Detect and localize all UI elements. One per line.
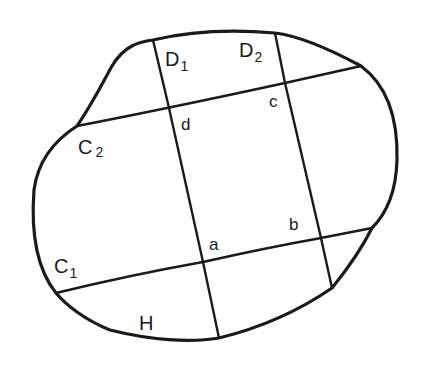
label-h: H bbox=[139, 312, 153, 334]
label-point-d: d bbox=[181, 115, 190, 134]
label-d1: D1 bbox=[165, 48, 188, 74]
label-d2: D2 bbox=[239, 39, 262, 65]
label-c1: C1 bbox=[54, 255, 77, 281]
label-c2: C2 bbox=[78, 136, 103, 160]
label-point-a: a bbox=[209, 235, 219, 254]
label-point-b: b bbox=[289, 215, 298, 234]
region-diagram: D1 D2 C2 C1 d c a b H bbox=[0, 0, 422, 368]
curve-d1 bbox=[153, 40, 219, 338]
curve-d2 bbox=[275, 33, 332, 288]
curve-c2 bbox=[77, 66, 361, 126]
region-boundary bbox=[33, 31, 397, 340]
label-point-c: c bbox=[269, 92, 278, 111]
